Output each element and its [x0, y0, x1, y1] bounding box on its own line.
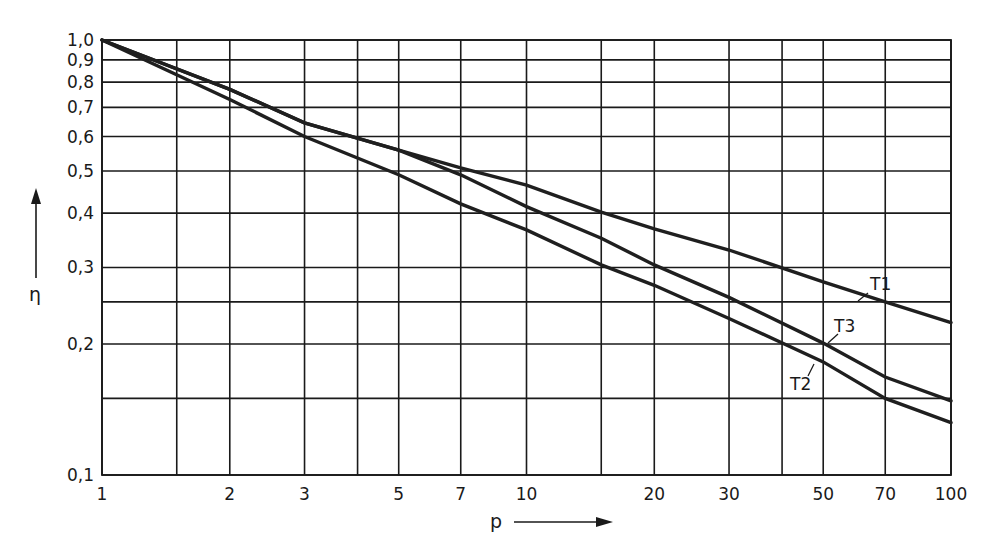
x-tick-label: 10	[516, 484, 538, 504]
curve-label-t1: T1	[869, 274, 891, 294]
y-tick-label: 0,7	[67, 97, 94, 117]
x-axis-arrow-icon	[596, 517, 613, 527]
x-tick-label: 3	[299, 484, 310, 504]
x-tick-label: 7	[455, 484, 466, 504]
curve-label-t2: T2	[789, 374, 811, 394]
x-tick-label: 2	[224, 484, 235, 504]
x-axis-label-group: p	[490, 510, 613, 532]
x-axis-label: p	[490, 510, 502, 532]
x-tick-label: 30	[718, 484, 740, 504]
y-tick-label: 0,6	[67, 127, 94, 147]
grid	[102, 40, 951, 475]
y-tick-label: 0,9	[67, 50, 94, 70]
y-tick-label: 0,3	[67, 257, 94, 277]
x-tick-label: 50	[812, 484, 834, 504]
y-tick-label: 0,8	[67, 72, 94, 92]
y-axis-label: η	[29, 283, 41, 305]
x-tick-label: 70	[874, 484, 896, 504]
x-tick-label: 1	[97, 484, 108, 504]
y-tick-label: 0,4	[67, 203, 94, 223]
y-axis-label-group: η	[29, 188, 41, 305]
x-tick-label: 20	[643, 484, 665, 504]
x-tick-label: 5	[393, 484, 404, 504]
log-log-chart: 0,10,20,30,40,50,60,70,80,91,0 123571020…	[0, 0, 989, 557]
y-tick-label: 0,1	[67, 465, 94, 485]
x-tick-labels: 123571020305070100	[97, 484, 968, 504]
y-axis-arrow-icon	[31, 188, 41, 204]
curve-label-t3: T3	[833, 316, 855, 336]
x-tick-label: 100	[935, 484, 967, 504]
y-tick-label: 0,2	[67, 334, 94, 354]
y-tick-label: 0,5	[67, 161, 94, 181]
y-tick-labels: 0,10,20,30,40,50,60,70,80,91,0	[67, 30, 94, 485]
y-tick-label: 1,0	[67, 30, 94, 50]
